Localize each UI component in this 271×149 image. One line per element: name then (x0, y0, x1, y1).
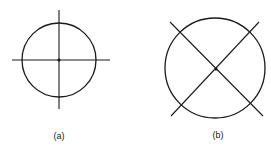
figure-b (165, 18, 265, 118)
figure-b-label: (b) (213, 130, 224, 140)
figure-a-center-dot (57, 58, 60, 61)
figure-a-label: (a) (54, 131, 65, 141)
figure-a (12, 10, 110, 109)
diagram-canvas (0, 0, 271, 149)
figure-b-center-dot (214, 67, 217, 70)
